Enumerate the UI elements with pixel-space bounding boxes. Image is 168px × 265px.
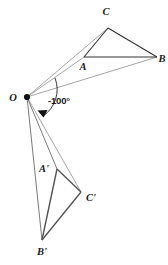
rays-to-image-triangle xyxy=(27,97,81,240)
rays-to-original-triangle xyxy=(27,28,157,97)
triangle-ABC xyxy=(84,28,157,57)
ray-O-to-A xyxy=(27,57,84,97)
label-O: O xyxy=(9,92,17,103)
label-C: C xyxy=(102,6,110,17)
geometry-figure: O C A B A' C' B' -100° xyxy=(0,0,168,265)
label-A-prime: A' xyxy=(38,163,49,174)
triangle-A-prime-B-prime-C-prime xyxy=(42,169,81,240)
label-A: A xyxy=(78,61,86,72)
ray-O-to-A-prime xyxy=(27,97,57,169)
center-point-O-dot xyxy=(24,94,30,100)
segment-C-A xyxy=(84,28,108,57)
segment-B-C xyxy=(108,28,157,57)
segment-C-prime-A-prime xyxy=(57,169,81,192)
geometry-canvas: O C A B A' C' B' -100° xyxy=(0,0,168,265)
label-C-prime: C' xyxy=(86,192,96,203)
ray-O-to-B xyxy=(27,57,157,97)
segment-B-prime-C-prime xyxy=(42,192,81,240)
label-rotation-angle: -100° xyxy=(48,95,70,106)
segment-A-prime-B-prime xyxy=(42,169,57,240)
label-B-prime: B' xyxy=(36,246,47,257)
ray-O-to-C xyxy=(27,28,108,97)
label-B: B xyxy=(157,53,165,64)
